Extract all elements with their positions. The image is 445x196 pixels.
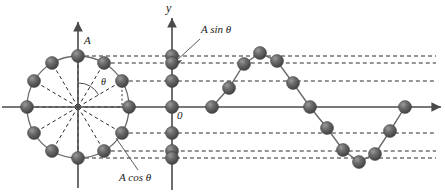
- circle-dot: [21, 101, 34, 114]
- circle-dot: [123, 101, 136, 114]
- wave-dot: [271, 55, 284, 68]
- circle-of-reference-figure: A y 0 θ A sin θ A cos θ: [0, 0, 445, 196]
- wave-dot: [369, 148, 382, 161]
- wave-dot: [287, 77, 300, 90]
- wave-dot: [321, 122, 334, 135]
- circle-dot: [46, 57, 59, 70]
- wave-dot: [399, 101, 412, 114]
- axis-column-dot: [166, 127, 179, 140]
- circle-dot: [28, 75, 41, 88]
- wave-dot: [353, 156, 366, 169]
- wave-dot: [304, 101, 317, 114]
- axis-column-dot: [166, 57, 179, 70]
- circle-dot: [72, 50, 85, 63]
- circle-dot: [98, 145, 111, 158]
- wave-dot: [206, 101, 219, 114]
- wave-dot: [223, 82, 236, 95]
- y-axis-label: y: [166, 2, 171, 14]
- circle-dot: [98, 57, 111, 70]
- circle-dot: [116, 75, 129, 88]
- a-sin-theta-label: A sin θ: [201, 24, 231, 35]
- axis-column-dot: [166, 152, 179, 165]
- circle-dot: [116, 127, 129, 140]
- wave-dot: [238, 58, 251, 71]
- circle-dot: [28, 127, 41, 140]
- origin-label: 0: [177, 110, 183, 121]
- theta-label: θ: [101, 77, 106, 87]
- axis-column-dot: [166, 75, 179, 88]
- circle-dot: [72, 152, 85, 165]
- wave-dot: [337, 144, 350, 157]
- amplitude-label: A: [84, 35, 91, 46]
- wave-dot: [384, 125, 397, 138]
- a-cos-theta-label: A cos θ: [119, 172, 151, 183]
- wave-dot: [254, 47, 267, 60]
- circle-dot: [46, 145, 59, 158]
- axes: [2, 18, 441, 190]
